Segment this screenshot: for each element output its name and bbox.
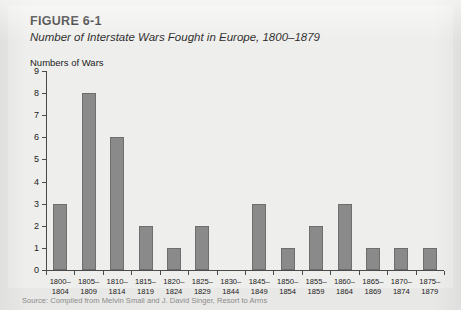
x-axis-tick xyxy=(188,271,189,275)
x-axis-label-line: 1854 xyxy=(273,287,301,297)
x-axis-tick xyxy=(46,271,47,275)
bar xyxy=(423,248,437,270)
bar xyxy=(167,248,181,270)
x-axis-label: 1870–1874 xyxy=(387,277,415,296)
x-axis-label-line: 1809 xyxy=(74,287,102,297)
y-axis-tick-label: 9 xyxy=(28,66,39,76)
y-axis-tick-label: 5 xyxy=(28,154,39,164)
x-axis-label: 1805–1809 xyxy=(74,277,102,296)
y-axis-tick xyxy=(42,71,47,72)
x-axis-label: 1810–1814 xyxy=(103,277,131,296)
bar xyxy=(110,137,124,270)
x-axis-label-line: 1879 xyxy=(416,287,444,297)
x-axis-tick xyxy=(302,271,303,275)
x-axis-tick xyxy=(131,271,132,275)
x-axis-tick xyxy=(359,271,360,275)
x-axis-tick xyxy=(217,271,218,275)
x-axis-label-line: 1805– xyxy=(74,277,102,287)
x-axis-label: 1815–1819 xyxy=(131,277,159,296)
x-axis-label: 1820–1824 xyxy=(160,277,188,296)
x-axis-tick xyxy=(74,271,75,275)
y-axis-tick-label: 1 xyxy=(28,243,39,253)
y-axis-tick-label: 7 xyxy=(28,110,39,120)
x-axis-label-line: 1829 xyxy=(188,287,216,297)
bar xyxy=(366,248,380,270)
bar xyxy=(82,93,96,270)
bar xyxy=(252,204,266,270)
x-axis-label-line: 1814 xyxy=(103,287,131,297)
y-axis-tick xyxy=(42,248,47,249)
bar xyxy=(281,248,295,270)
bar-chart-plot: 0123456789 1800–18041805–18091810–181418… xyxy=(30,71,444,271)
x-axis-tick xyxy=(330,271,331,275)
y-axis-tick-label: 6 xyxy=(28,132,39,142)
x-axis-label-line: 1865– xyxy=(359,277,387,287)
bar xyxy=(309,226,323,270)
figure-panel: FIGURE 6-1 Number of Interstate Wars Fou… xyxy=(8,5,453,288)
x-axis-tick xyxy=(103,271,104,275)
x-axis-label-line: 1875– xyxy=(416,277,444,287)
y-axis-title: Numbers of Wars xyxy=(30,57,104,68)
x-axis-label-line: 1810– xyxy=(103,277,131,287)
x-axis-label-line: 1825– xyxy=(188,277,216,287)
x-axis-label: 1860–1864 xyxy=(330,277,358,296)
bar xyxy=(195,226,209,270)
x-axis-label: 1855–1859 xyxy=(302,277,330,296)
y-axis-tick-label: 4 xyxy=(28,177,39,187)
x-axis-label-line: 1800– xyxy=(46,277,74,287)
y-axis-tick-label: 3 xyxy=(28,199,39,209)
x-axis-label-line: 1820– xyxy=(160,277,188,287)
figure-title: Number of Interstate Wars Fought in Euro… xyxy=(30,31,320,43)
x-axis-label-line: 1815– xyxy=(131,277,159,287)
x-axis-label-line: 1824 xyxy=(160,287,188,297)
y-axis-tick xyxy=(42,204,47,205)
y-axis-tick-label: 2 xyxy=(28,221,39,231)
bar xyxy=(53,204,67,270)
y-axis-tick-label: 0 xyxy=(28,265,39,275)
x-axis-label: 1825–1829 xyxy=(188,277,216,296)
y-axis-tick-label: 8 xyxy=(28,88,39,98)
y-axis-tick xyxy=(42,226,47,227)
figure-root: FIGURE 6-1 Number of Interstate Wars Fou… xyxy=(0,0,461,310)
x-axis-label-line: 1869 xyxy=(359,287,387,297)
x-axis-label-line: 1860– xyxy=(330,277,358,287)
x-axis-label-line: 1830– xyxy=(217,277,245,287)
x-axis-label: 1865–1869 xyxy=(359,277,387,296)
x-axis-label: 1845–1849 xyxy=(245,277,273,296)
x-axis-label-line: 1864 xyxy=(330,287,358,297)
x-axis-label: 1875–1879 xyxy=(416,277,444,296)
x-axis-tick xyxy=(160,271,161,275)
x-axis-tick xyxy=(387,271,388,275)
x-axis-label-line: 1804 xyxy=(46,287,74,297)
x-axis-label-line: 1859 xyxy=(302,287,330,297)
figure-label: FIGURE 6-1 xyxy=(30,14,102,28)
x-axis-label-line: 1850– xyxy=(273,277,301,287)
y-axis-tick xyxy=(42,93,47,94)
bar xyxy=(338,204,352,270)
bar xyxy=(394,248,408,270)
x-axis-tick xyxy=(273,271,274,275)
y-axis-tick xyxy=(42,159,47,160)
x-axis-label: 1850–1854 xyxy=(273,277,301,296)
y-axis-tick xyxy=(42,137,47,138)
x-axis-label-line: 1855– xyxy=(302,277,330,287)
x-axis-label: 1800–1804 xyxy=(46,277,74,296)
x-axis-tick xyxy=(416,271,417,275)
x-axis-tick xyxy=(444,271,445,275)
x-axis-label-line: 1874 xyxy=(387,287,415,297)
x-axis-label-line: 1844 xyxy=(217,287,245,297)
y-axis-tick xyxy=(42,182,47,183)
source-note: Source: Compiled from Melvin Small and J… xyxy=(22,296,452,305)
bar xyxy=(139,226,153,270)
x-axis-label-line: 1819 xyxy=(131,287,159,297)
x-axis-label-line: 1870– xyxy=(387,277,415,287)
x-axis-tick xyxy=(245,271,246,275)
x-axis-label: 1830–1844 xyxy=(217,277,245,296)
y-axis-line xyxy=(46,71,47,270)
x-axis-label-line: 1849 xyxy=(245,287,273,297)
y-axis-tick xyxy=(42,115,47,116)
x-axis-label-line: 1845– xyxy=(245,277,273,287)
